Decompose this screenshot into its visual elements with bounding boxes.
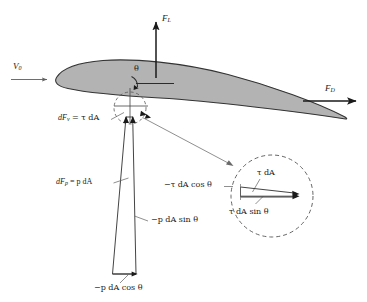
airfoil-body bbox=[56, 60, 347, 119]
freestream-velocity-label: V0 bbox=[13, 62, 22, 71]
angle-theta-label: θ bbox=[134, 65, 139, 73]
lift-force-label: FL bbox=[162, 14, 171, 23]
pressure-force-label: dFp = p dA bbox=[56, 178, 92, 186]
airfoil-force-diagram: FL V0 FD θ dFv = τ dA dFp = p dA −p dA s… bbox=[0, 0, 367, 302]
shear-force-arrows bbox=[140, 111, 151, 119]
diagram-canvas bbox=[0, 0, 367, 302]
pressure-cos-component-label: −p dA cos θ bbox=[94, 284, 143, 292]
inset-shear-cos-label: −τ dA cos θ bbox=[164, 181, 212, 189]
shear-force-label: dFv = τ dA bbox=[58, 114, 99, 122]
drag-force-label: FD bbox=[325, 84, 335, 93]
pressure-sin-component-label: −p dA sin θ bbox=[151, 216, 198, 224]
inset-shear-label: τ dA bbox=[257, 169, 275, 177]
pressure-force-vector bbox=[113, 116, 138, 277]
inset-shear-sin-label: τ dA sin θ bbox=[229, 208, 269, 216]
